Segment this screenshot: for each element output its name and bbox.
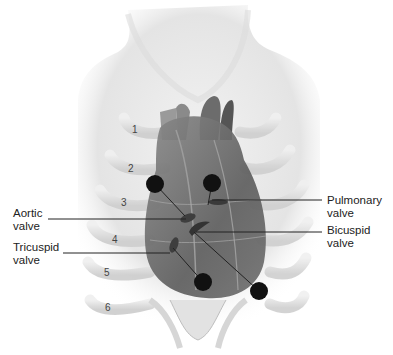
label-tricuspid-valve: Tricuspid valve — [13, 241, 59, 266]
diagram: 1 2 3 4 5 6 Aortic valve Tricuspid valve… — [0, 0, 393, 355]
rib-number-4: 4 — [112, 234, 118, 245]
label-pulmonary-valve: Pulmonary valve — [327, 194, 382, 219]
rib-number-2: 2 — [128, 163, 134, 174]
pulmonary-auscultation-dot — [203, 174, 221, 192]
rib-number-1: 1 — [132, 124, 138, 135]
aortic-auscultation-dot — [146, 175, 164, 193]
tricuspid-auscultation-dot — [194, 273, 212, 291]
label-aortic-valve: Aortic valve — [13, 207, 42, 232]
rib-number-6: 6 — [105, 302, 111, 313]
rib-number-5: 5 — [104, 267, 110, 278]
label-bicuspid-valve: Bicuspid valve — [327, 224, 370, 249]
bicuspid-auscultation-dot — [250, 282, 268, 300]
thorax-illustration — [0, 0, 393, 355]
rib-number-3: 3 — [121, 197, 127, 208]
